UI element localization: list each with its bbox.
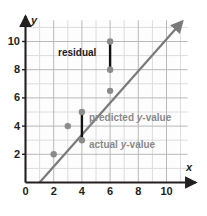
- predicted-suffix: -value: [142, 112, 171, 123]
- actual-prefix: actual: [89, 139, 121, 150]
- x-tick-label-0: 0: [16, 186, 36, 197]
- x-tick-label-6: 6: [100, 186, 120, 197]
- y-tick-label-8: 8: [0, 64, 20, 75]
- y-tick-label-2: 2: [0, 149, 20, 160]
- x-tick-label-4: 4: [72, 186, 92, 197]
- x-tick-label-10: 10: [157, 186, 177, 197]
- annotation-residual: residual: [58, 48, 96, 58]
- residual-scatter-chart: y x 0246810 246810 residual predicted y-…: [0, 0, 207, 216]
- annotation-predicted-y-value: predicted y-value: [89, 113, 171, 123]
- predicted-prefix: predicted: [89, 112, 137, 123]
- plot-background: [25, 20, 181, 182]
- actual-suffix: -value: [126, 139, 155, 150]
- chart-canvas: [0, 0, 207, 216]
- y-tick-label-4: 4: [0, 121, 20, 132]
- y-axis-title: y: [31, 15, 37, 26]
- x-tick-label-8: 8: [128, 186, 148, 197]
- x-axis-title: x: [186, 162, 192, 173]
- x-tick-label-2: 2: [44, 186, 64, 197]
- y-tick-label-10: 10: [0, 36, 20, 47]
- y-tick-label-6: 6: [0, 92, 20, 103]
- annotation-actual-y-value: actual y-value: [89, 140, 155, 150]
